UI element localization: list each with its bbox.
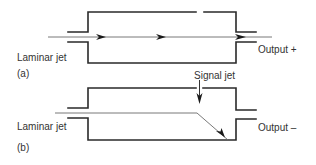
signal-jet-label: Signal jet [194, 70, 235, 81]
inlet-upper-wall-a [68, 12, 196, 32]
chamber-top-right-b [203, 88, 256, 110]
output-label-b: Output – [258, 122, 297, 133]
panel-a: Laminar jet (a) Output + [17, 12, 297, 79]
input-label-b: Laminar jet [17, 121, 67, 132]
inlet-lower-wall-b [68, 118, 256, 140]
inlet-lower-wall-a [68, 42, 256, 63]
deflected-flow-arrow-icon [216, 128, 225, 138]
chamber-top-right-a [204, 12, 256, 32]
panel-tag-a: (a) [17, 68, 29, 79]
input-label-a: Laminar jet [17, 52, 67, 63]
laminar-jet-line-b [55, 113, 228, 140]
fluidic-amplifier-diagram: Laminar jet (a) Output + Signal jet Lami… [0, 0, 316, 165]
inlet-upper-wall-b [68, 88, 196, 108]
output-label-a: Output + [258, 44, 297, 55]
panel-tag-b: (b) [17, 142, 29, 153]
panel-b: Signal jet Laminar jet (b) Output – [17, 70, 297, 153]
